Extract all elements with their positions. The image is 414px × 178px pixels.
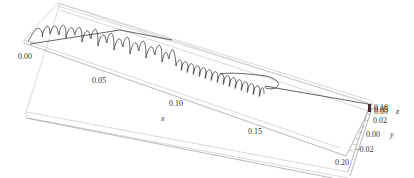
y-axis-label: y	[389, 130, 394, 139]
plot-box-outline	[24, 3, 372, 156]
z-axis-compressed-ticks	[368, 104, 371, 112]
x-tick-4: 0.20	[335, 158, 349, 167]
y-tick-0: 0.02	[373, 116, 387, 125]
x-tick-0: 0.00	[18, 52, 32, 61]
y-tick-1: 0.00	[366, 130, 380, 139]
x-tick-3: 0.15	[248, 127, 262, 136]
z-axis-label: z	[395, 107, 400, 116]
plot-box	[26, 4, 372, 178]
x-axis-label: x	[160, 114, 165, 123]
y-tick-2: −0.02	[355, 145, 374, 154]
z-tick-2: 0.00	[374, 107, 388, 116]
trajectory-curve	[28, 25, 368, 104]
x-tick-2: 0.10	[169, 99, 183, 108]
x-axis-ticks: 0.00 0.05 0.10 0.15 0.20	[18, 52, 349, 167]
z-axis-tick-labels: 0.10 0.05 0.00	[368, 103, 388, 116]
3d-plot: 0.00 0.05 0.10 0.15 0.20 x 0.02 0.00 −0.…	[0, 0, 414, 178]
x-tick-1: 0.05	[92, 76, 106, 85]
